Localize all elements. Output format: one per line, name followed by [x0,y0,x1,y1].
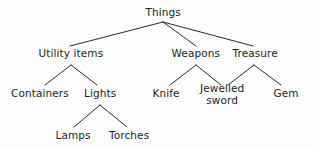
edge-treasure-to-gem [254,65,281,85]
node-treasure: Treasure [233,48,278,60]
edge-lights-to-torches [100,105,127,127]
node-knife: Knife [153,88,180,100]
tree-diagram: Things Utility items Weapons Treasure Co… [0,0,313,149]
edge-utility-to-containers [45,65,71,85]
node-things: Things [146,7,181,19]
node-lights: Lights [84,88,116,100]
edge-things-to-utility [70,22,163,46]
tree-edges-layer [0,0,313,149]
node-torches: Torches [109,130,149,142]
edge-group [45,22,281,127]
edge-weapons-to-knife [170,65,196,85]
node-utility-items: Utility items [39,48,104,60]
edge-utility-to-lights [71,65,97,85]
edge-lights-to-lamps [74,105,100,127]
node-weapons: Weapons [172,48,221,60]
node-gem: Gem [274,88,299,100]
edge-things-to-weapons [163,22,196,46]
edge-things-to-treasure [163,22,253,46]
node-containers: Containers [11,88,69,100]
node-lamps: Lamps [56,130,91,142]
node-jewelled-sword: Jewelled sword [200,82,244,106]
